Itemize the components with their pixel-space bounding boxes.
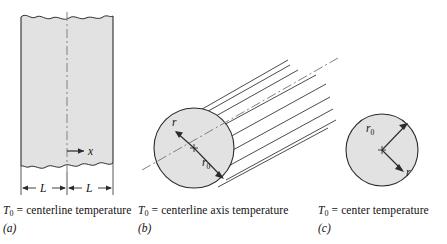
half-thickness-right-label: L <box>85 182 92 194</box>
caption-c: T0 = center temperature <box>318 204 429 218</box>
caption-c-text: = center temperature <box>332 204 429 216</box>
cylinder-drawing: r r0 <box>140 40 340 200</box>
dim-arrowhead-left-inner <box>60 185 66 190</box>
panel-letter-b: (b) <box>138 222 151 234</box>
panel-a-plane-wall: x L L <box>0 0 140 200</box>
cylinder-r-label: r <box>172 116 177 128</box>
panel-c-sphere: r0 r <box>330 100 440 200</box>
caption-b: T0 = centerline axis temperature <box>138 204 288 218</box>
x-label: x <box>87 145 94 157</box>
caption-a-text: = centerline temperature <box>17 204 132 216</box>
caption-c-subscript: 0 <box>325 209 329 218</box>
half-thickness-left-label: L <box>39 182 46 194</box>
dim-arrowhead-right-outer <box>106 185 112 190</box>
caption-b-text: = centerline axis temperature <box>152 204 289 216</box>
sphere-drawing: r0 r <box>330 100 440 200</box>
panel-b-cylinder: r r0 <box>140 40 340 200</box>
caption-a: T0 = centerline temperature <box>3 204 131 218</box>
dim-arrowhead-left-outer <box>22 185 28 190</box>
caption-b-subscript: 0 <box>145 209 149 218</box>
plane-wall-drawing: x L L <box>0 0 140 200</box>
panel-letter-c: (c) <box>318 222 331 234</box>
sphere-r-label: r <box>406 166 411 178</box>
panel-letter-a: (a) <box>3 222 16 234</box>
caption-a-subscript: 0 <box>10 209 14 218</box>
dim-arrowhead-right-inner <box>68 185 74 190</box>
slab-body <box>21 15 113 168</box>
